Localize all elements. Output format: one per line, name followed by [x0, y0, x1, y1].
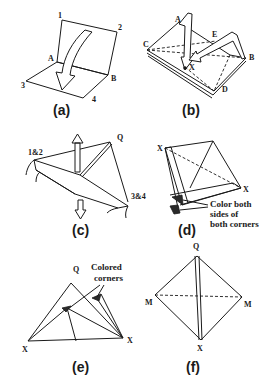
square-top — [165, 141, 241, 205]
inner-left-edge — [28, 308, 67, 341]
back-triangle — [34, 142, 128, 202]
caption-a: (a) — [53, 102, 70, 118]
caption-e: (e) — [72, 359, 89, 375]
diagonal-Q — [190, 141, 213, 188]
crease-M-M — [155, 295, 242, 297]
label-M-right: M — [244, 300, 252, 309]
panel-c: 1&2 Q 3&4 (c) — [26, 133, 146, 238]
origami-folding-diagram: 1 2 3 4 A B (a) A C E B D X (b) — [0, 0, 263, 386]
caption-c: (c) — [72, 222, 89, 238]
panel-a: 1 2 3 4 A B (a) — [21, 11, 122, 118]
panel-d: X X Color both sides of both corners (d)… — [157, 141, 259, 251]
label-1-and-2: 1&2 — [28, 148, 43, 157]
point-X — [183, 66, 187, 70]
curl-arrow-left-2 — [36, 172, 40, 182]
caption-d: (d) — [178, 222, 196, 238]
label-X: X — [197, 344, 203, 353]
label-X-right: X — [243, 185, 249, 194]
label-3-and-4: 3&4 — [131, 192, 146, 201]
center-fold-2 — [199, 256, 202, 340]
inner-top-edge — [67, 308, 123, 338]
note-line-1: Colored — [91, 262, 122, 272]
label-1: 1 — [58, 11, 62, 20]
right-flap-inner — [101, 294, 123, 338]
lower-edge — [36, 170, 75, 194]
panel-e: Q X X Colored corners (e) — [22, 262, 133, 375]
crease-to-Q — [80, 142, 110, 175]
left-flap — [165, 147, 188, 203]
caption-f: (f) — [186, 359, 200, 375]
bottom-layer-edge-2 — [148, 56, 212, 98]
caption-b: (b) — [182, 102, 200, 118]
pull-up-arrow — [72, 134, 83, 172]
label-2: 2 — [118, 23, 122, 32]
colored-corner-right — [92, 294, 101, 301]
note-line-3: both corners — [210, 219, 259, 229]
label-3: 3 — [21, 81, 25, 90]
panel-f: M M X (f) — [145, 256, 252, 375]
panel-b: A C E B D X (b) — [143, 13, 255, 118]
curl-arrow-left — [26, 160, 34, 175]
label-E: E — [212, 30, 217, 39]
curl-arrow-right — [126, 206, 128, 218]
crease-to-Q-2 — [82, 144, 112, 177]
center-fold-1 — [195, 256, 199, 340]
label-B: B — [249, 53, 255, 62]
pull-down-arrow — [75, 200, 86, 219]
label-B: B — [111, 74, 117, 83]
label-X: X — [189, 63, 195, 72]
label-A: A — [175, 15, 181, 24]
arrow-A-to-X — [179, 13, 194, 70]
label-Q: Q — [117, 133, 123, 142]
label-Q-f-top: Q — [193, 242, 199, 251]
label-A: A — [48, 54, 54, 63]
fold-down-arrow — [56, 30, 92, 90]
label-M-left: M — [145, 298, 153, 307]
curl-arrow-right-2 — [107, 208, 118, 213]
right-flap-outer — [96, 297, 123, 338]
label-X-right: X — [127, 336, 133, 345]
colored-corner-lower — [170, 205, 180, 214]
note-line-2: corners — [94, 273, 123, 283]
label-X-left: X — [157, 144, 163, 153]
note-line-1: Color both — [210, 199, 252, 209]
note-line-2: sides of — [210, 209, 239, 219]
label-X-left: X — [22, 345, 28, 354]
label-Q: Q — [73, 265, 79, 274]
label-4: 4 — [92, 95, 96, 104]
inner-fold — [67, 308, 76, 341]
label-D: D — [222, 85, 228, 94]
label-C: C — [143, 40, 149, 49]
pointer-line-2 — [180, 207, 208, 210]
